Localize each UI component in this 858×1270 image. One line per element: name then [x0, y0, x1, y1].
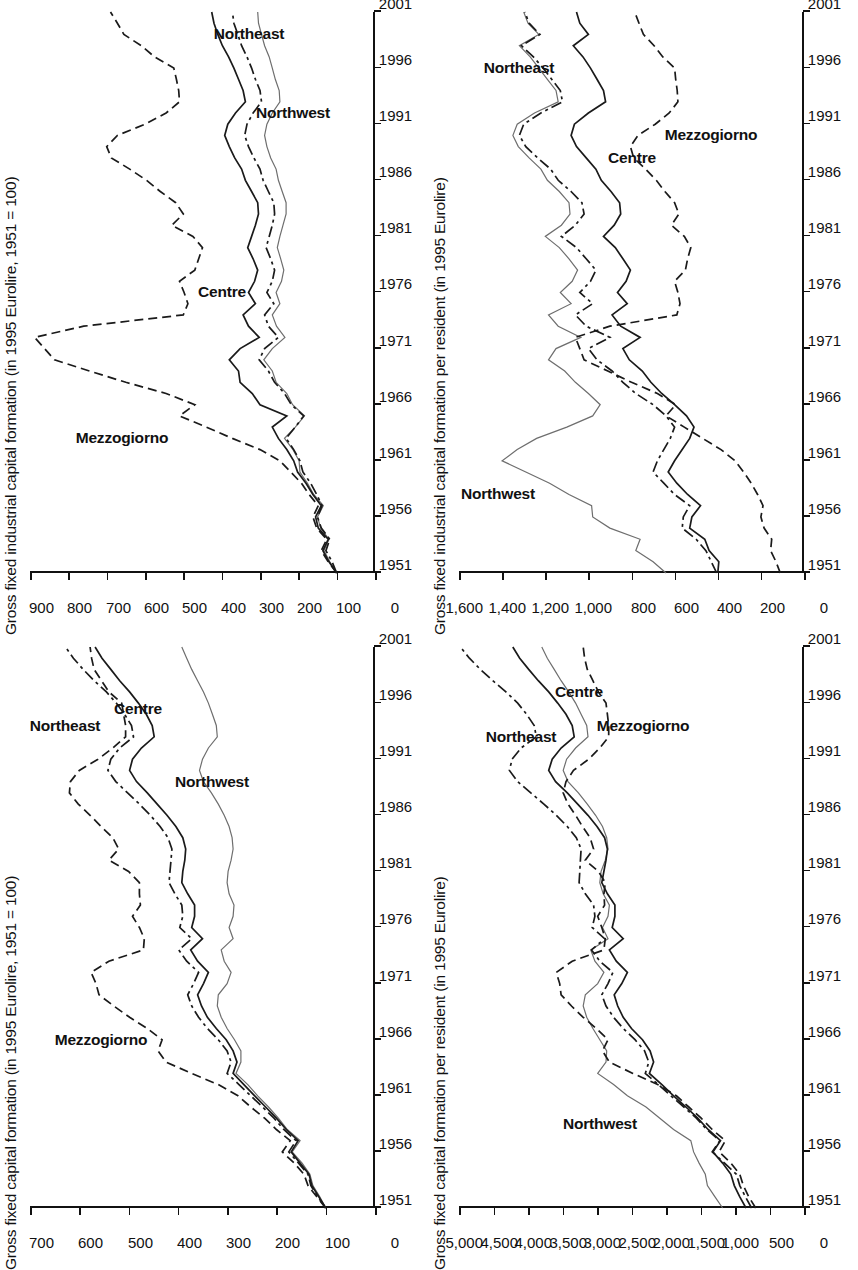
series-label-centre: Centre [608, 149, 656, 167]
series-label-centre: Centre [198, 284, 246, 302]
y-tick [502, 572, 504, 580]
series-label-mezzogiorno: Mezzogiorno [665, 126, 758, 144]
y-tick [701, 1207, 703, 1215]
y-tick [375, 572, 377, 580]
series-label-northeast: Northeast [484, 59, 555, 77]
panel-title: Gross fixed industrial capital formation… [2, 0, 20, 635]
x-tick-label: 2001 [379, 0, 412, 12]
y-tick-label: 0 [351, 1234, 399, 1251]
x-tick-label: 1976 [808, 911, 841, 928]
panel-bottom-right: Gross fixed capital formation per reside… [429, 635, 858, 1270]
x-tick-label: 2001 [808, 0, 841, 12]
y-tick [718, 572, 720, 580]
y-tick-label: 400 [154, 1234, 202, 1251]
panel-title: Gross fixed capital formation per reside… [431, 635, 449, 1270]
x-tick-label: 1991 [379, 742, 412, 759]
x-tick-label: 1996 [379, 686, 412, 703]
y-tick [675, 572, 677, 580]
panel-bottom-left: Gross fixed capital formation (in 1995 E… [0, 635, 429, 1270]
series-label-northeast: Northeast [29, 717, 100, 735]
x-tick-label: 1986 [379, 163, 412, 180]
x-tick-label: 1971 [379, 967, 412, 984]
series-label-centre: Centre [114, 700, 162, 718]
x-tick-label: 1996 [808, 51, 841, 68]
y-tick [597, 1207, 599, 1215]
x-tick-label: 1991 [379, 107, 412, 124]
x-tick-label: 1956 [379, 1135, 412, 1152]
series-line-mezzogiorno [69, 647, 325, 1208]
y-tick-label: 900 [6, 599, 54, 616]
x-tick-label: 1981 [379, 219, 412, 236]
x-tick-label: 2001 [379, 630, 412, 647]
x-tick-label: 1971 [808, 967, 841, 984]
y-tick [298, 572, 300, 580]
y-tick-label: 200 [252, 1234, 300, 1251]
y-tick [183, 572, 185, 580]
x-tick-label: 1986 [808, 798, 841, 815]
y-tick [260, 572, 262, 580]
series-label-northwest: Northwest [256, 104, 330, 122]
y-tick [528, 1207, 530, 1215]
y-tick-label: 1,000 [564, 599, 612, 616]
x-tick-label: 1956 [808, 1135, 841, 1152]
y-tick [494, 1207, 496, 1215]
series-line-northeast [66, 647, 326, 1208]
x-tick-label: 1951 [808, 556, 841, 573]
x-tick-label: 1956 [808, 500, 841, 517]
x-tick-label: 1971 [379, 332, 412, 349]
y-tick [632, 572, 634, 580]
y-tick-label: 600 [651, 599, 699, 616]
series-label-mezzogiorno: Mezzogiorno [76, 429, 169, 447]
x-tick-label: 1996 [808, 686, 841, 703]
series-line-mezzogiorno [575, 12, 780, 573]
x-tick-label: 1966 [379, 1023, 412, 1040]
x-tick-label: 1966 [808, 388, 841, 405]
x-tick-label: 1986 [379, 798, 412, 815]
y-tick-label: 1,600 [435, 599, 483, 616]
x-tick-label: 1981 [808, 219, 841, 236]
x-tick-label: 1976 [379, 276, 412, 293]
series-label-centre: Centre [555, 683, 603, 701]
y-tick-label: 200 [737, 599, 785, 616]
y-tick-label: 300 [203, 1234, 251, 1251]
y-tick [129, 1207, 131, 1215]
y-tick-label: 600 [55, 1234, 103, 1251]
panel-title: Gross fixed capital formation (in 1995 E… [2, 635, 20, 1270]
x-tick-label: 1991 [808, 107, 841, 124]
y-tick [375, 1207, 377, 1215]
y-tick [735, 1207, 737, 1215]
panel-title: Gross fixed industrial capital formation… [431, 0, 449, 635]
x-tick-label: 1951 [379, 1191, 412, 1208]
y-tick-label: 5,000 [435, 1234, 483, 1251]
y-tick [178, 1207, 180, 1215]
x-tick-label: 1966 [379, 388, 412, 405]
series-label-northeast: Northeast [486, 728, 557, 746]
y-tick [588, 572, 590, 580]
x-tick-label: 1956 [379, 500, 412, 517]
y-tick [337, 572, 339, 580]
series-label-northwest: Northwest [175, 773, 249, 791]
y-tick [632, 1207, 634, 1215]
x-tick-label: 1961 [379, 1079, 412, 1096]
y-tick [459, 1207, 461, 1215]
series-label-northwest: Northwest [461, 485, 535, 503]
figure-page: Gross fixed industrial capital formation… [0, 0, 858, 1270]
y-tick [459, 572, 461, 580]
x-tick-label: 2001 [808, 630, 841, 647]
y-tick-label: 400 [694, 599, 742, 616]
y-tick-label: 1,200 [521, 599, 569, 616]
y-tick [545, 572, 547, 580]
y-tick [666, 1207, 668, 1215]
x-tick-label: 1991 [808, 742, 841, 759]
x-tick-label: 1976 [808, 276, 841, 293]
series-label-mezzogiorno: Mezzogiorno [55, 1031, 148, 1049]
y-tick [227, 1207, 229, 1215]
panel-top-right: Gross fixed industrial capital formation… [429, 0, 858, 635]
y-tick [326, 1207, 328, 1215]
x-tick-label: 1981 [808, 854, 841, 871]
y-tick [276, 1207, 278, 1215]
y-tick [30, 1207, 32, 1215]
y-tick-label: 700 [6, 1234, 54, 1251]
y-tick [804, 572, 806, 580]
y-tick [804, 1207, 806, 1215]
